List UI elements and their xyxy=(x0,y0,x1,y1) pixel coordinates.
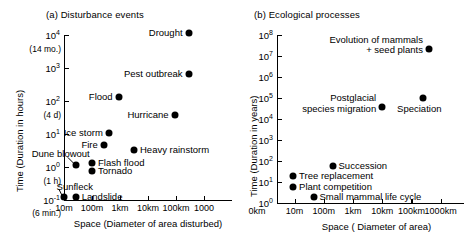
y-axis-title: Time (Duration in years) xyxy=(248,95,259,197)
x-tick-label: 1000km xyxy=(425,206,457,216)
y-tick xyxy=(278,56,282,57)
y-axis-title: Time (Duration in hours) xyxy=(14,90,25,192)
data-point xyxy=(290,184,297,191)
data-point xyxy=(171,111,178,118)
y-tick-label: 108 xyxy=(259,29,273,41)
x-tick-label: 10m xyxy=(55,203,73,213)
data-point xyxy=(72,162,79,169)
data-point-label: Tree replacement xyxy=(299,170,373,181)
x-axis-title: Space (Diameter of area disturbed) xyxy=(74,218,222,229)
data-point xyxy=(420,95,427,102)
y-axis-line xyxy=(64,35,65,200)
y-tick-label: 101 xyxy=(259,176,273,188)
data-point-label: Hurricane xyxy=(127,110,168,121)
data-point-label: Drought xyxy=(149,28,183,39)
y-tick-label: 101 xyxy=(46,128,60,140)
data-point-label: Ice storm xyxy=(64,128,103,139)
y-tick-label: 104 xyxy=(46,29,60,41)
y-tick xyxy=(65,68,69,69)
x-tick-label: 1km xyxy=(344,206,361,216)
y-tick-label: 103 xyxy=(46,62,60,74)
data-point-label: Evolution of mammals + seed plants xyxy=(329,34,422,55)
y-tick xyxy=(65,101,69,102)
data-point-label: Pest outbreak xyxy=(124,69,183,80)
data-point-label: Dune blowout xyxy=(32,149,90,160)
data-point xyxy=(310,194,317,201)
data-point xyxy=(425,45,432,52)
y-tick xyxy=(278,77,282,78)
y-tick-label: 104 xyxy=(259,113,273,125)
y-tick-label: 100 xyxy=(46,161,60,173)
y-axis-annotation: (4 d) xyxy=(44,110,61,120)
data-point xyxy=(131,146,138,153)
data-point-label: Small mammal life cycle xyxy=(320,192,422,203)
panel-a-title: (a) Disturbance events xyxy=(46,9,144,20)
y-tick xyxy=(278,119,282,120)
data-point-label: Landslide xyxy=(82,192,123,203)
x-tick-label: 100m xyxy=(81,203,104,213)
x-tick xyxy=(204,196,205,200)
x-tick-label: 10km xyxy=(371,206,393,216)
x-tick xyxy=(441,199,442,203)
data-point xyxy=(379,104,386,111)
data-point xyxy=(61,194,68,201)
panel-ecological-processes: (b) Ecological processes 108107106105104… xyxy=(236,0,473,244)
x-tick xyxy=(295,199,296,203)
y-tick xyxy=(278,140,282,141)
x-tick-label: 10km xyxy=(137,203,159,213)
x-tick-label: 100km xyxy=(162,203,189,213)
y-tick xyxy=(278,35,282,36)
y-tick-label: 107 xyxy=(259,50,273,62)
y-tick xyxy=(278,98,282,99)
x-axis-line xyxy=(277,203,464,204)
x-tick xyxy=(148,196,149,200)
data-point xyxy=(290,172,297,179)
x-axis-title: Space ( Diameter of area) xyxy=(322,221,431,232)
x-tick xyxy=(176,196,177,200)
x-tick-label: 1000 xyxy=(194,203,214,213)
y-tick-label: 102 xyxy=(259,155,273,167)
panel-disturbance-events: (a) Disturbance events 10410310210110010… xyxy=(0,0,237,244)
y-tick xyxy=(278,161,282,162)
y-tick xyxy=(65,167,69,168)
data-point-label: Postglacial species migration xyxy=(302,93,376,114)
data-point xyxy=(185,30,192,37)
data-point xyxy=(72,194,79,201)
data-point xyxy=(115,94,122,101)
x-tick-label: 100km xyxy=(398,206,425,216)
data-point-label: Speciation xyxy=(397,104,441,115)
x-tick-label-carryover: 0km xyxy=(248,206,265,216)
y-tick-label: 106 xyxy=(259,71,273,83)
x-tick-label: 1km xyxy=(111,203,128,213)
y-tick-label: 102 xyxy=(46,95,60,107)
y-tick xyxy=(65,35,69,36)
y-tick-label: 103 xyxy=(259,134,273,146)
data-point xyxy=(105,130,112,137)
y-tick xyxy=(278,182,282,183)
data-point-label: Flood xyxy=(89,92,113,103)
data-point xyxy=(329,162,336,169)
x-tick-label: 10m xyxy=(286,206,304,216)
y-tick xyxy=(278,203,282,204)
panel-b-title: (b) Ecological processes xyxy=(254,9,360,20)
data-point xyxy=(100,141,107,148)
y-axis-annotation: (14 mo.) xyxy=(29,44,61,54)
data-point xyxy=(89,167,96,174)
data-point-label: Heavy rainstorm xyxy=(140,145,209,156)
data-point-label: Sunfleck xyxy=(57,182,93,193)
data-point xyxy=(89,160,96,167)
x-tick-label: 100m xyxy=(312,206,335,216)
y-tick-label: 105 xyxy=(259,92,273,104)
data-point-label: Tornado xyxy=(98,166,132,177)
data-point xyxy=(185,70,192,77)
